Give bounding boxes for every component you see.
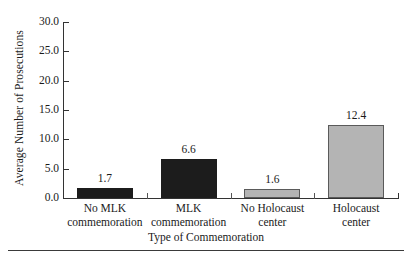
y-tick-label: 25.0 (39, 45, 59, 57)
y-tick-label: 5.0 (45, 163, 59, 175)
x-axis-title: Type of Commemoration (0, 231, 412, 243)
bar-value-label: 1.7 (75, 173, 135, 185)
y-tick-mark (64, 169, 69, 170)
bar-value-label: 6.6 (159, 144, 219, 156)
y-tick-mark (64, 81, 69, 82)
y-tick-mark (64, 110, 69, 111)
bar (244, 189, 300, 198)
x-axis-right-cap (398, 193, 399, 199)
bar-value-label: 1.6 (242, 174, 302, 186)
bar (161, 159, 217, 198)
bar-value-label: 12.4 (326, 110, 386, 122)
y-tick-label: 20.0 (39, 75, 59, 87)
x-tick-mark (231, 193, 232, 199)
y-tick-mark (64, 22, 69, 23)
x-category-line2: center (296, 216, 412, 230)
bar (328, 125, 384, 198)
y-tick-label: 15.0 (39, 104, 59, 116)
bottom-divider (8, 250, 404, 251)
y-tick-label: 30.0 (39, 16, 59, 28)
x-category-label: Holocaustcenter (296, 202, 412, 229)
y-tick-mark (64, 198, 69, 199)
y-tick-mark (64, 51, 69, 52)
bar (77, 188, 133, 198)
y-tick-label: 10.0 (39, 133, 59, 145)
bar-chart-figure: Average Number of Prosecutions 0.05.010.… (0, 0, 412, 260)
y-axis-title: Average Number of Prosecutions (13, 13, 25, 203)
x-tick-mark (314, 193, 315, 199)
x-tick-mark (147, 193, 148, 199)
y-tick-mark (64, 139, 69, 140)
x-category-line1: Holocaust (296, 202, 412, 216)
